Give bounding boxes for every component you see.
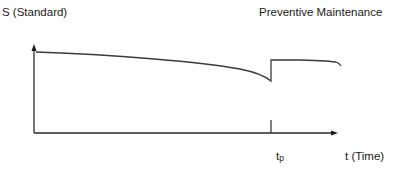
- x-axis-arrow-icon: [331, 131, 338, 136]
- tp-marker-label: tp: [276, 151, 284, 163]
- tp-label-sub: p: [279, 153, 284, 163]
- performance-curve: [36, 52, 341, 81]
- x-axis-label: t (Time): [345, 151, 384, 163]
- y-axis-arrow-icon: [32, 44, 37, 51]
- maintenance-diagram: [0, 0, 402, 180]
